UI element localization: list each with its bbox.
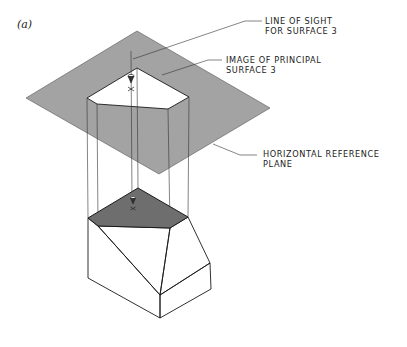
callout-line-of-sight-line1: LINE OF SIGHT xyxy=(265,16,333,26)
callout-image-of-principal-line2: SURFACE 3 xyxy=(226,65,276,75)
callout-image-of-principal-line1: IMAGE OF PRINCIPAL xyxy=(226,55,321,65)
callout-reference-plane: HORIZONTAL REFERENCE PLANE xyxy=(263,149,380,169)
solid-object xyxy=(88,188,211,318)
solid-right-front-face xyxy=(160,263,211,318)
callout-line-of-sight: LINE OF SIGHT FOR SURFACE 3 xyxy=(265,16,337,36)
callout-image-of-principal: IMAGE OF PRINCIPAL SURFACE 3 xyxy=(226,55,321,75)
callout-line-of-sight-line2: FOR SURFACE 3 xyxy=(265,26,337,36)
leader-reference-plane xyxy=(213,144,257,155)
callout-reference-plane-line2: PLANE xyxy=(263,159,293,169)
solid-left-face xyxy=(88,218,160,318)
figure-label: (a) xyxy=(17,18,32,31)
callout-reference-plane-line1: HORIZONTAL REFERENCE xyxy=(263,149,380,159)
solid-middle-face xyxy=(98,226,170,295)
principal-surface-3 xyxy=(88,188,188,228)
solid-right-sloped-face xyxy=(160,217,210,295)
orthographic-projection-diagram: (a) xyxy=(0,0,407,347)
